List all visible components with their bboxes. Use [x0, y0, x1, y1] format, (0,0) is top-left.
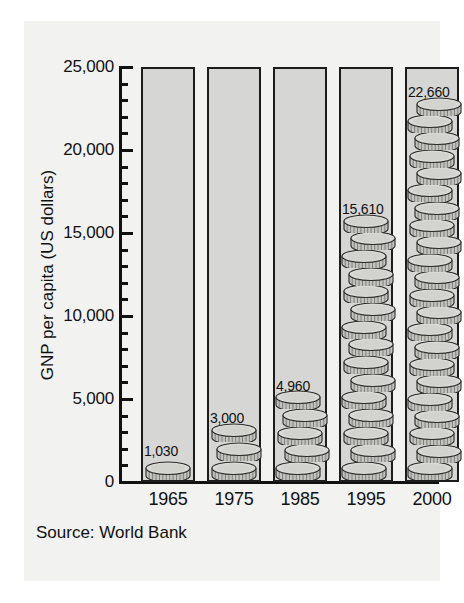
y-axis-major-tick — [119, 398, 133, 401]
y-axis-minor-tick — [119, 448, 128, 451]
coin-icon — [416, 444, 462, 463]
coin-icon — [350, 443, 396, 462]
coin-icon — [350, 302, 396, 321]
y-axis-major-tick — [119, 66, 133, 69]
coin-icon — [407, 461, 453, 480]
bar-column — [273, 67, 327, 482]
coin-icon — [341, 320, 387, 339]
bar-inner — [143, 69, 193, 480]
y-axis-minor-tick — [119, 166, 128, 169]
coin-icon — [343, 284, 389, 303]
coin-icon — [407, 392, 453, 411]
coin-icon — [341, 461, 387, 480]
coin-icon — [343, 355, 389, 374]
y-axis-minor-tick — [119, 116, 128, 119]
coin-icon — [407, 114, 453, 133]
coin-icon — [409, 149, 455, 168]
y-axis-tick-label: 0 — [36, 472, 114, 492]
y-axis-minor-tick — [119, 348, 128, 351]
coin-icon — [416, 97, 462, 116]
coin-icon — [348, 408, 394, 427]
y-axis-title: GNP per capita (US dollars) — [38, 145, 58, 405]
bar-inner — [407, 69, 457, 480]
coin-icon — [409, 218, 455, 237]
y-axis-minor-tick — [119, 265, 128, 268]
coin-icon — [416, 305, 462, 324]
y-axis-minor-tick — [119, 381, 128, 384]
y-axis-minor-tick — [119, 415, 128, 418]
coin-stack — [275, 398, 325, 480]
coin-icon — [350, 373, 396, 392]
y-axis-minor-tick — [119, 298, 128, 301]
y-axis-major-tick — [119, 149, 133, 152]
y-axis-minor-tick — [119, 215, 128, 218]
y-axis-tick-label: 25,000 — [36, 57, 114, 77]
coin-icon — [284, 443, 330, 462]
y-axis-minor-tick — [119, 83, 128, 86]
coin-icon — [211, 461, 257, 480]
y-axis-minor-tick — [119, 431, 128, 434]
y-axis-minor-tick — [119, 132, 128, 135]
coin-icon — [414, 409, 460, 428]
coin-icon — [216, 442, 262, 461]
y-axis-minor-tick — [119, 365, 128, 368]
y-axis-minor-tick — [119, 99, 128, 102]
coin-icon — [343, 426, 389, 445]
coin-icon — [341, 390, 387, 409]
coin-icon — [409, 357, 455, 376]
coin-icon — [341, 249, 387, 268]
coin-stack — [209, 430, 259, 480]
bar-column — [405, 67, 459, 482]
coin-icon — [277, 426, 323, 445]
coin-icon — [414, 131, 460, 150]
coin-icon — [414, 270, 460, 289]
coin-icon — [211, 423, 257, 442]
coin-icon — [350, 231, 396, 250]
coin-icon — [348, 337, 394, 356]
coin-icon — [282, 408, 328, 427]
x-axis-tick-label: 1975 — [202, 489, 266, 510]
coin-icon — [348, 267, 394, 286]
coin-stack — [143, 463, 193, 480]
bar-column — [141, 67, 195, 482]
coin-icon — [407, 253, 453, 272]
coin-icon — [414, 340, 460, 359]
bar-value-label: 1,030 — [144, 443, 178, 459]
bar-inner — [341, 69, 391, 480]
coin-stack — [341, 221, 391, 480]
x-axis-tick-label: 1985 — [268, 489, 332, 510]
coin-icon — [416, 235, 462, 254]
source-note: Source: World Bank — [36, 523, 187, 543]
x-axis-tick-label: 1965 — [136, 489, 200, 510]
coin-icon — [145, 461, 191, 480]
y-axis-minor-tick — [119, 332, 128, 335]
coin-stack — [407, 104, 457, 480]
y-axis-major-tick — [119, 232, 133, 235]
y-axis-minor-tick — [119, 182, 128, 185]
bar-inner — [275, 69, 325, 480]
bar-column — [339, 67, 393, 482]
coin-icon — [343, 214, 389, 233]
coin-icon — [414, 201, 460, 220]
y-axis-major-tick — [119, 315, 133, 318]
coin-icon — [407, 322, 453, 341]
coin-icon — [409, 426, 455, 445]
y-axis-minor-tick — [119, 199, 128, 202]
y-axis-minor-tick — [119, 249, 128, 252]
x-axis-tick-label: 1995 — [334, 489, 398, 510]
x-axis-tick-label: 2000 — [400, 489, 464, 510]
y-axis-minor-tick — [119, 464, 128, 467]
coin-icon — [416, 166, 462, 185]
coin-icon — [416, 374, 462, 393]
coin-icon — [407, 183, 453, 202]
y-axis-line — [119, 67, 122, 484]
coin-icon — [275, 390, 321, 409]
y-axis-minor-tick — [119, 282, 128, 285]
coin-icon — [275, 461, 321, 480]
coin-icon — [409, 288, 455, 307]
